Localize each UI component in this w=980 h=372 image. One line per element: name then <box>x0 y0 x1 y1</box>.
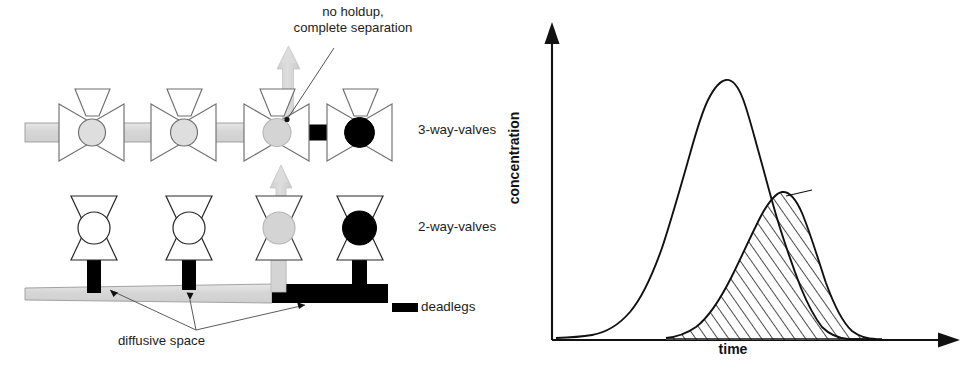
impurities-hatched-area <box>660 185 885 345</box>
x-axis-label: time <box>688 341 778 357</box>
piping-diagram-svg <box>0 0 500 372</box>
annotation-no-holdup-line2: complete separation <box>258 20 448 36</box>
deadleg-stub-1 <box>87 255 101 293</box>
y-axis-label: concentration <box>506 98 522 218</box>
valve-body-2way-2 <box>173 212 205 244</box>
valve-body-2way-4 <box>343 211 377 245</box>
valve-3way-4-deadleg[interactable] <box>327 89 392 161</box>
figure-root: no holdup, complete separation 3-way-val… <box>0 0 980 372</box>
valve-2way-4-deadleg[interactable] <box>337 196 383 260</box>
label-diffusive-space: diffusive space <box>118 333 205 349</box>
deadleg-pipe-lower <box>272 284 388 303</box>
valve-3way-1[interactable] <box>59 89 124 161</box>
two-way-valve-row <box>25 165 388 330</box>
concentration-chart-svg <box>480 0 980 372</box>
valve-body-2way-3 <box>263 212 295 244</box>
legend-label-deadlegs: deadlegs <box>421 299 475 315</box>
valve-body-2 <box>171 119 198 146</box>
main-pipe-lower <box>25 284 272 303</box>
impurities-label-leader <box>786 190 812 196</box>
valve-2way-2[interactable] <box>166 196 212 260</box>
valve-2way-1[interactable] <box>71 196 117 260</box>
valve-body-3 <box>263 119 291 147</box>
legend-swatch-deadlegs <box>392 303 418 312</box>
valve-actuator-1 <box>75 89 110 116</box>
valve-body-2way-1 <box>78 212 110 244</box>
x-axis-arrowhead <box>938 333 960 348</box>
valve-3way-2[interactable] <box>151 89 216 161</box>
valve-actuator-2 <box>167 89 202 116</box>
valve-body-4 <box>345 118 375 148</box>
valve-3way-3-active[interactable] <box>244 89 309 161</box>
three-way-valve-row <box>25 46 392 161</box>
valve-actuator-4 <box>343 89 378 116</box>
piping-diagram-panel: no holdup, complete separation 3-way-val… <box>0 0 500 372</box>
concentration-chart-panel: concentration Impurities <box>480 0 980 372</box>
annotation-no-holdup-line1: no holdup, <box>258 4 448 20</box>
annotation-no-holdup: no holdup, complete separation <box>258 4 448 36</box>
valve-body-1 <box>79 119 106 146</box>
y-axis-arrowhead <box>545 22 560 44</box>
y-axis <box>545 22 560 340</box>
valve-2way-3-active[interactable] <box>256 196 302 260</box>
